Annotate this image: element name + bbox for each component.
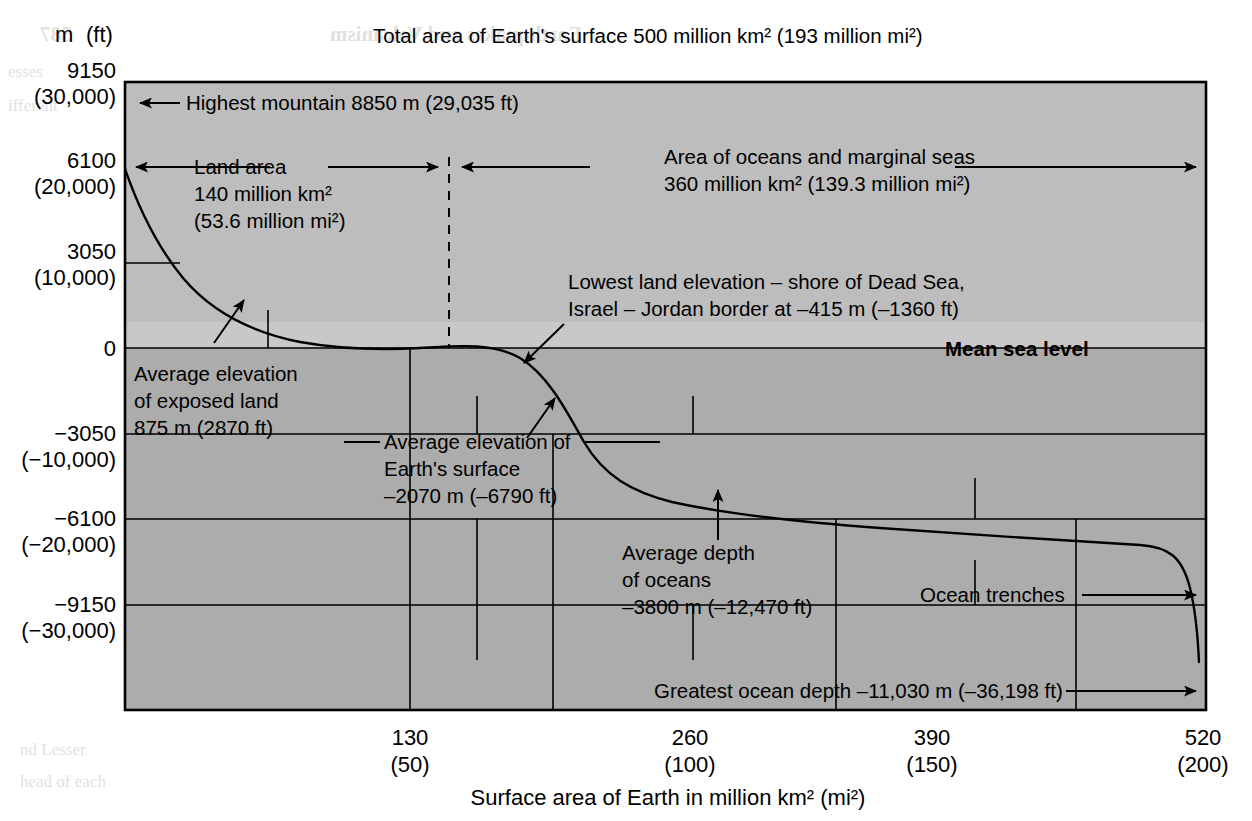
land-area-label-3: (53.6 million mi²) [194, 209, 346, 232]
y-tick-ft-0: (30,000) [34, 84, 116, 109]
x-tick-mi2-2: (150) [906, 752, 957, 777]
y-tick-ft-2: (10,000) [34, 265, 116, 290]
lowest-land-label-1: Lowest land elevation – shore of Dead Se… [568, 270, 965, 293]
y-axis-unit-m: m [55, 22, 73, 47]
y-tick-ft-4: (−10,000) [21, 447, 116, 472]
x-tick-km2-0: 130 [392, 725, 429, 750]
y-tick-m-6: −9150 [54, 592, 116, 617]
avg-surface-label-2: Earth's surface [384, 457, 520, 480]
ocean-area-label-2: 360 million km² (139.3 million mi²) [664, 172, 970, 195]
y-tick-m-3: 0 [104, 336, 116, 361]
y-tick-ft-1: (20,000) [34, 174, 116, 199]
x-tick-mi2-1: (100) [664, 752, 715, 777]
x-tick-km2-3: 520 [1185, 725, 1222, 750]
x-axis-title: Surface area of Earth in million km² (mi… [471, 785, 866, 810]
y-tick-ft-6: (−30,000) [21, 618, 116, 643]
x-tick-km2-1: 260 [672, 725, 709, 750]
figure-canvas: 587 Earthquakes and Volcanism esses iffe… [0, 0, 1252, 821]
land-area-label-2: 140 million km² [194, 182, 332, 205]
y-tick-m-1: 6100 [67, 148, 116, 173]
y-tick-ft-5: (−20,000) [21, 532, 116, 557]
avg-depth-label-1: Average depth [622, 541, 755, 564]
x-tick-km2-2: 390 [914, 725, 951, 750]
y-tick-m-4: −3050 [54, 421, 116, 446]
x-axis-tick-labels: 130 (50) 260 (100) 390 (150) 520 (200) [390, 725, 1228, 777]
avg-depth-label-2: of oceans [622, 568, 711, 591]
avg-surface-label-3: –2070 m (–6790 ft) [384, 484, 557, 507]
avg-surface-label-1: Average elevation of [384, 430, 571, 453]
greatest-depth-label: Greatest ocean depth –11,030 m (–36,198 … [654, 679, 1063, 702]
hypsographic-curve-svg: Total area of Earth's surface 500 millio… [0, 0, 1252, 821]
ocean-area-label-1: Area of oceans and marginal seas [664, 145, 975, 168]
lowest-land-label-2: Israel – Jordan border at –415 m (–1360 … [568, 297, 959, 320]
x-tick-mi2-0: (50) [390, 752, 429, 777]
y-axis-tick-labels: 9150 (30,000) 6100 (20,000) 3050 (10,000… [21, 58, 116, 643]
mean-sea-level-label: Mean sea level [945, 337, 1089, 360]
x-tick-mi2-3: (200) [1177, 752, 1228, 777]
land-area-label-1: Land area [194, 155, 287, 178]
highest-mountain-label: Highest mountain 8850 m (29,035 ft) [186, 91, 519, 114]
avg-exposed-label-1: Average elevation [134, 362, 298, 385]
figure-top-title: Total area of Earth's surface 500 millio… [373, 24, 923, 47]
avg-depth-label-3: –3800 m (–12,470 ft) [622, 595, 812, 618]
annotation-highest-mountain: Highest mountain 8850 m (29,035 ft) [140, 91, 519, 114]
avg-exposed-label-3: 875 m (2870 ft) [134, 416, 273, 439]
avg-exposed-label-2: of exposed land [134, 389, 279, 412]
y-tick-m-0: 9150 [67, 58, 116, 83]
y-axis-unit-ft: (ft) [86, 22, 113, 47]
y-tick-m-5: −6100 [54, 506, 116, 531]
y-tick-m-2: 3050 [67, 239, 116, 264]
ocean-trenches-label: Ocean trenches [920, 583, 1065, 606]
